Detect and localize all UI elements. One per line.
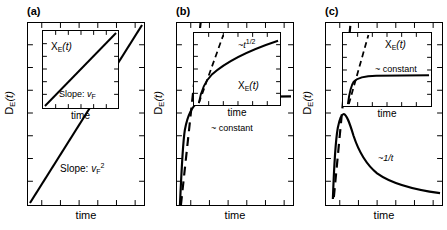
panel-b-label: (b) — [176, 5, 190, 18]
panel-b-inset-ylabel: XE(t) — [238, 80, 259, 95]
one-over-t: ~1/t — [378, 153, 393, 163]
d-subscript: E — [157, 102, 166, 107]
x-symbol: X — [385, 39, 392, 50]
d-argument: (t) — [301, 91, 313, 101]
slope-word: Slope: — [60, 163, 88, 174]
panel-c-label: (c) — [325, 5, 338, 18]
panel-a-label: (a) — [27, 5, 40, 18]
panel-c-inset-dashed-reference — [349, 35, 369, 104]
x-argument: (t) — [62, 41, 71, 52]
figure-root: (a) — [0, 0, 447, 230]
slope-word: Slope: — [59, 89, 85, 99]
d-symbol: D — [152, 107, 164, 115]
d-symbol: D — [301, 107, 313, 115]
panel-b-inset-svg — [194, 33, 280, 105]
x-argument: (t) — [396, 39, 405, 50]
x-symbol: X — [238, 80, 245, 91]
x-symbol: X — [51, 41, 58, 52]
panel-a-inset: XE(t) Slope: vF — [42, 30, 119, 109]
panel-c-xlabel: time — [325, 209, 443, 222]
panel-b: (b) — [149, 0, 298, 230]
panel-c-ylabel: DE(t) — [301, 73, 317, 133]
panel-b-ylabel: DE(t) — [152, 73, 168, 133]
panel-a-inset-slope-annotation: Slope: vF — [59, 88, 96, 103]
d-argument: (t) — [152, 91, 164, 101]
sqrt-exponent: 1/2 — [246, 38, 256, 45]
x-argument: (t) — [249, 80, 258, 91]
d-symbol: D — [3, 107, 15, 115]
panel-c-inset-xlabel: time — [342, 108, 432, 119]
panel-b-xlabel: time — [176, 209, 294, 222]
panel-a-inset-ylabel: XE(t) — [51, 41, 72, 56]
panel-b-inset-xlabel: time — [193, 107, 281, 118]
panel-a-xlabel: time — [27, 209, 145, 222]
d-argument: (t) — [3, 91, 15, 101]
panel-a: (a) — [0, 0, 149, 230]
panel-c-inset-ylabel: XE(t) — [385, 39, 406, 54]
v-subscript: F — [92, 93, 96, 100]
panel-b-constant-annotation: ~ constant — [211, 122, 253, 134]
panel-a-ylabel: DE(t) — [3, 73, 19, 133]
tilde-t: ~t — [238, 40, 246, 50]
panel-b-inset-scaling-annotation: ~t1/2 — [238, 36, 256, 51]
panel-a-slope-annotation: Slope: vF2 — [60, 160, 104, 178]
panel-a-inset-xlabel: time — [42, 110, 119, 121]
v-subscript: F — [96, 168, 100, 175]
v-exponent: 2 — [100, 162, 104, 169]
panel-c-inset-constant-annotation: ~ constant — [375, 63, 417, 75]
panel-c-inset: XE(t) ~ constant — [342, 32, 432, 107]
panel-c-inset-curve — [348, 75, 429, 104]
panel-b-inset: ~t1/2 XE(t) — [193, 32, 281, 106]
panel-c-decay-annotation: ~1/t — [378, 152, 393, 164]
d-subscript: E — [306, 102, 315, 107]
d-subscript: E — [8, 102, 17, 107]
panel-c: (c) — [298, 0, 447, 230]
